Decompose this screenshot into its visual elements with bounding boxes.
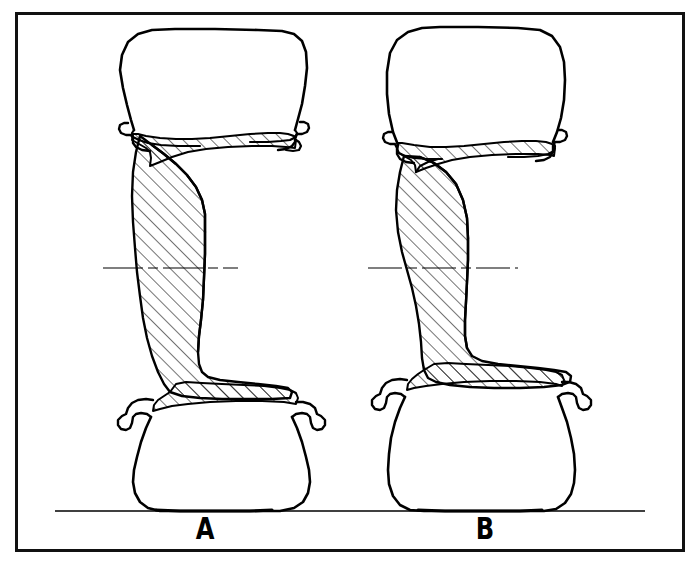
figure-border-frame — [15, 12, 685, 552]
figure-b-label: B — [462, 513, 509, 544]
figure-a-label: A — [182, 513, 229, 544]
page-root: A B — [0, 0, 700, 565]
